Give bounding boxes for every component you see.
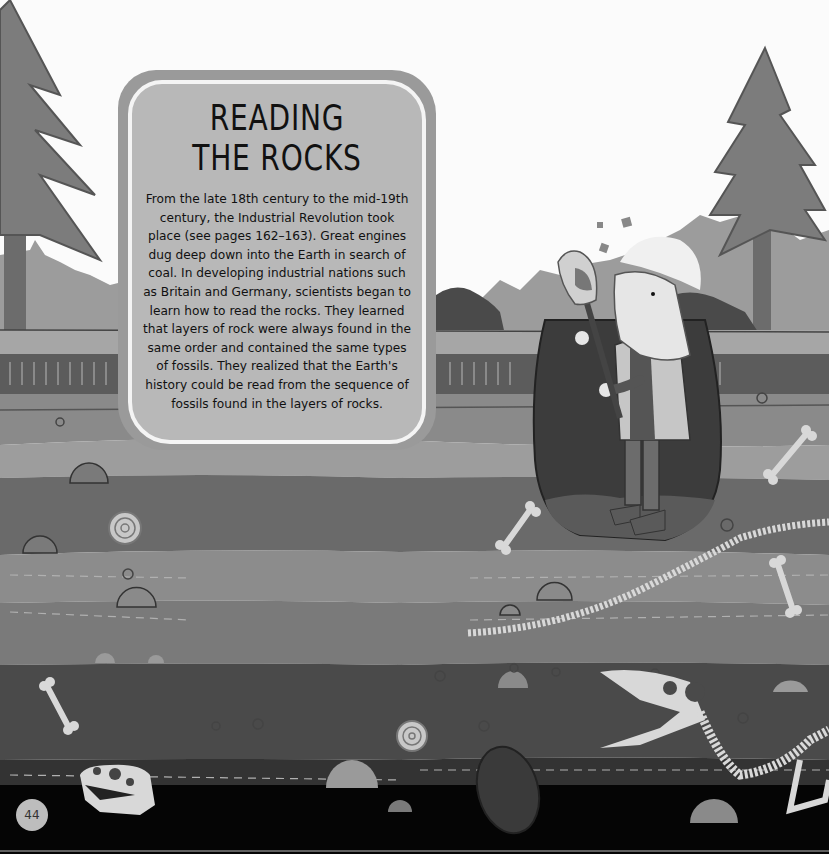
ammonite-fossil: [397, 721, 427, 751]
page-number-badge: 44: [16, 799, 48, 831]
title-line-2: THE ROCKS: [164, 138, 390, 178]
book-page: READING THE ROCKS From the late 18th cen…: [0, 0, 829, 854]
body-paragraph: From the late 18th century to the mid-19…: [142, 190, 412, 413]
title-line-1: READING: [164, 98, 390, 138]
page-title: READING THE ROCKS: [164, 98, 390, 178]
text-panel: READING THE ROCKS From the late 18th cen…: [128, 80, 426, 444]
page-number: 44: [24, 808, 39, 822]
ammonite-fossil: [109, 512, 141, 544]
rock-layer-5: [0, 601, 829, 666]
